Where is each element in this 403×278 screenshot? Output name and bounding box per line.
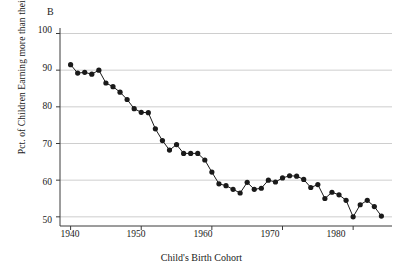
- data-point-1946: [110, 84, 115, 89]
- data-point-1968: [266, 178, 271, 183]
- data-point-1965: [245, 180, 250, 185]
- data-point-1954: [167, 148, 172, 153]
- data-point-1976: [322, 196, 327, 201]
- data-point-1941: [75, 71, 80, 76]
- data-point-1943: [89, 72, 94, 77]
- series-markers: [68, 62, 384, 219]
- data-point-1942: [82, 70, 87, 75]
- y-tick-marks: [56, 34, 60, 217]
- data-point-1940: [68, 62, 73, 67]
- chart-figure: B Pct. of Children Earning more than the…: [0, 0, 403, 278]
- data-point-1945: [103, 80, 108, 85]
- data-point-1956: [181, 151, 186, 156]
- data-point-1980: [351, 214, 356, 219]
- axes: [60, 28, 392, 226]
- data-point-1975: [315, 182, 320, 187]
- data-point-1948: [125, 97, 130, 102]
- chart-canvas: [0, 0, 403, 278]
- data-point-1969: [273, 179, 278, 184]
- data-point-1971: [287, 173, 292, 178]
- data-point-1963: [230, 187, 235, 192]
- series-line: [71, 65, 382, 217]
- gridlines: [60, 34, 392, 217]
- data-point-1958: [195, 151, 200, 156]
- data-point-1978: [336, 192, 341, 197]
- data-point-1966: [252, 187, 257, 192]
- x-tick-marks: [71, 226, 354, 230]
- data-point-1949: [132, 106, 137, 111]
- data-point-1983: [372, 204, 377, 209]
- data-point-1984: [379, 214, 384, 219]
- data-point-1979: [343, 198, 348, 203]
- data-point-1961: [216, 181, 221, 186]
- data-point-1952: [153, 126, 158, 131]
- data-point-1959: [202, 157, 207, 162]
- data-point-1972: [294, 174, 299, 179]
- data-point-1981: [358, 202, 363, 207]
- data-point-1955: [174, 142, 179, 147]
- data-point-1944: [96, 68, 101, 73]
- data-point-1953: [160, 138, 165, 143]
- data-point-1960: [209, 170, 214, 175]
- data-point-1982: [365, 198, 370, 203]
- data-point-1957: [188, 151, 193, 156]
- data-point-1950: [139, 110, 144, 115]
- data-point-1947: [117, 90, 122, 95]
- data-point-1974: [308, 185, 313, 190]
- data-point-1970: [280, 175, 285, 180]
- data-point-1962: [223, 183, 228, 188]
- data-point-1967: [259, 186, 264, 191]
- data-point-1951: [146, 110, 151, 115]
- data-point-1964: [238, 190, 243, 195]
- data-point-1977: [329, 190, 334, 195]
- data-point-1973: [301, 177, 306, 182]
